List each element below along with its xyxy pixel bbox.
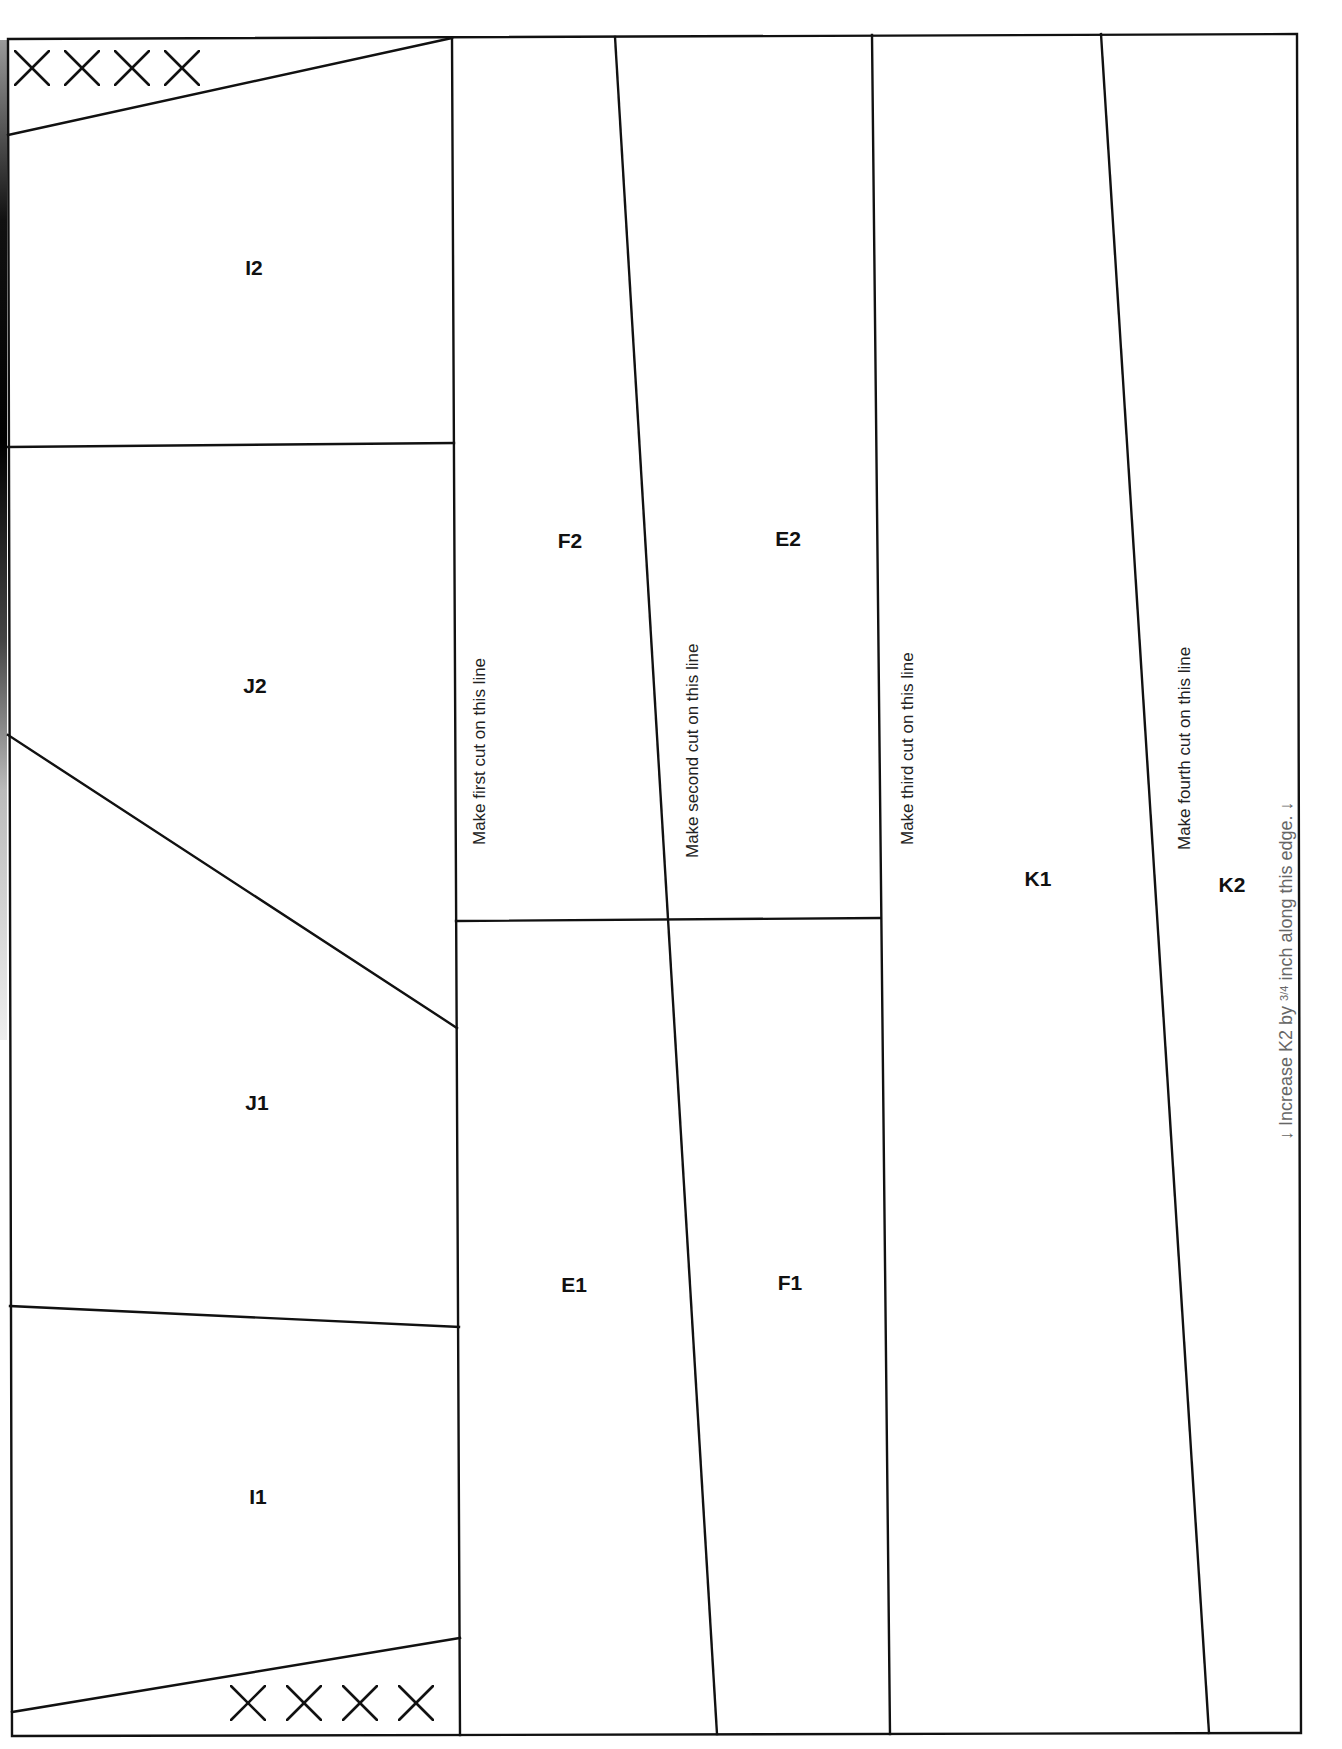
pattern-lines	[0, 0, 1342, 1749]
third-cut-instruction: Make third cut on this line	[898, 652, 918, 845]
x-mark-icon	[14, 50, 50, 86]
section-label-f1: F1	[778, 1271, 803, 1295]
k2-edge-note: ↓ Increase K2 by 3/4 inch along this edg…	[1276, 801, 1297, 1140]
section-label-f2: F2	[558, 529, 583, 553]
middle-horizontal-divider	[456, 918, 880, 921]
section-label-k2: K2	[1219, 873, 1246, 897]
x-mark-icon	[342, 1685, 378, 1721]
arrow-down-icon: ↓	[1276, 801, 1296, 810]
section-label-e1: E1	[561, 1273, 587, 1297]
third-cut-line	[872, 35, 890, 1734]
i2-j2-divider	[8, 443, 454, 447]
edge-note-suffix: inch along this edge.	[1276, 815, 1296, 985]
j2-j1-divider	[8, 735, 457, 1028]
fourth-cut-instruction: Make fourth cut on this line	[1175, 647, 1195, 850]
fourth-cut-line	[1101, 34, 1209, 1733]
section-label-j2: J2	[243, 674, 266, 698]
x-mark-icon	[114, 50, 150, 86]
section-label-j1: J1	[245, 1091, 268, 1115]
section-label-i1: I1	[249, 1485, 267, 1509]
j1-i1-divider	[10, 1306, 459, 1327]
section-label-e2: E2	[775, 527, 801, 551]
pattern-page: I2 J2 J1 I1 F2 E2 E1 F1 K1 K2 Make first…	[0, 0, 1342, 1749]
x-mark-icon	[398, 1685, 434, 1721]
arrow-down-icon: ↓	[1276, 1131, 1296, 1140]
bottom-discard-marks	[230, 1685, 434, 1721]
x-mark-icon	[64, 50, 100, 86]
second-cut-instruction: Make second cut on this line	[683, 643, 703, 858]
outer-frame	[8, 34, 1301, 1736]
top-discard-marks	[14, 50, 200, 86]
left-column-divider	[452, 38, 460, 1735]
first-cut-instruction: Make first cut on this line	[470, 658, 490, 845]
section-label-i2: I2	[245, 256, 263, 280]
x-mark-icon	[164, 50, 200, 86]
edge-note-fraction: 3/4	[1278, 986, 1290, 1001]
x-mark-icon	[286, 1685, 322, 1721]
second-cut-line	[615, 37, 717, 1734]
section-label-k1: K1	[1025, 867, 1052, 891]
edge-note-prefix: Increase K2 by	[1276, 1001, 1296, 1126]
x-mark-icon	[230, 1685, 266, 1721]
